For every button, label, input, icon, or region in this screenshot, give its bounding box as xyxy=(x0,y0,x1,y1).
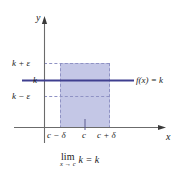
caption: lim x → c k = k xyxy=(60,150,99,167)
x-axis-label: x xyxy=(166,132,170,142)
limit-of-constant-function-figure: y x k + ε k k − ε c − δ c c + δ f(x) = k… xyxy=(0,0,178,178)
y-tick-label-k-plus-epsilon: k + ε xyxy=(12,59,30,68)
caption-expression: k = k xyxy=(79,154,100,165)
function-label: f(x) = k xyxy=(136,76,163,85)
x-tick-label-c: c xyxy=(82,131,86,140)
x-tick-label-c-minus-delta: c − δ xyxy=(47,131,66,140)
y-tick-label-k: k xyxy=(33,76,37,85)
x-tick-label-c-plus-delta: c + δ xyxy=(97,131,116,140)
caption-limit-operator: lim x → c xyxy=(60,152,76,168)
caption-lim-subscript: x → c xyxy=(60,161,76,168)
epsilon-delta-shaded-region xyxy=(60,63,110,127)
x-axis-arrowhead xyxy=(158,125,166,130)
y-axis-label: y xyxy=(36,13,40,23)
y-tick-label-k-minus-epsilon: k − ε xyxy=(12,92,30,101)
y-axis-arrowhead xyxy=(42,16,47,24)
